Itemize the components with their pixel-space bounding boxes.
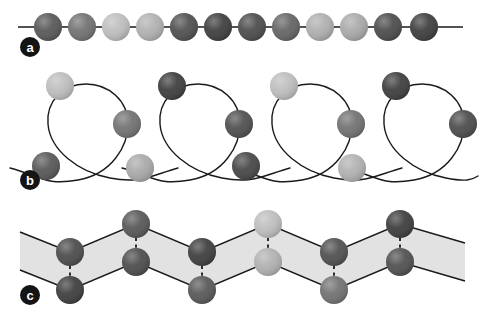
- helix-top-sphere: [46, 72, 74, 100]
- panel-label-b: b: [20, 170, 40, 190]
- panel-label-a: a: [20, 37, 40, 57]
- helix-bottom-sphere: [126, 154, 154, 182]
- ladder-upper-sphere: [188, 238, 216, 266]
- ladder-upper-sphere: [122, 210, 150, 238]
- ladder-lower-sphere: [254, 248, 282, 276]
- ladder-lower-sphere: [386, 248, 414, 276]
- helix-right-sphere: [449, 110, 477, 138]
- ladder-upper-sphere: [320, 238, 348, 266]
- ladder-upper-sphere: [386, 210, 414, 238]
- helix-right-sphere: [225, 110, 253, 138]
- panel-label-c: c: [20, 285, 40, 305]
- polymer-conformation-figure: a b c: [0, 0, 481, 322]
- chain-sphere: [170, 13, 198, 41]
- helix-top-sphere: [270, 72, 298, 100]
- chain-sphere: [340, 13, 368, 41]
- chain-sphere: [306, 13, 334, 41]
- helix-bottom-sphere: [232, 152, 260, 180]
- panel-label-c-text: c: [26, 288, 33, 303]
- ladder-lower-sphere: [56, 276, 84, 304]
- chain-sphere: [272, 13, 300, 41]
- ladder-lower-sphere: [188, 276, 216, 304]
- panel-label-b-text: b: [26, 173, 34, 188]
- chain-sphere: [102, 13, 130, 41]
- chain-sphere: [68, 13, 96, 41]
- helix-top-sphere: [382, 72, 410, 100]
- ladder-upper-sphere: [56, 238, 84, 266]
- chain-sphere: [410, 13, 438, 41]
- chain-sphere: [34, 13, 62, 41]
- chain-sphere: [136, 13, 164, 41]
- chain-sphere: [374, 13, 402, 41]
- chain-sphere: [238, 13, 266, 41]
- helix-bottom-sphere: [338, 154, 366, 182]
- chain-sphere: [204, 13, 232, 41]
- ladder-upper-sphere: [254, 210, 282, 238]
- panel-label-a-text: a: [26, 40, 34, 55]
- ladder-lower-sphere: [122, 248, 150, 276]
- helix-top-sphere: [158, 72, 186, 100]
- helix-right-sphere: [337, 110, 365, 138]
- ladder-lower-sphere: [320, 276, 348, 304]
- helix-right-sphere: [113, 110, 141, 138]
